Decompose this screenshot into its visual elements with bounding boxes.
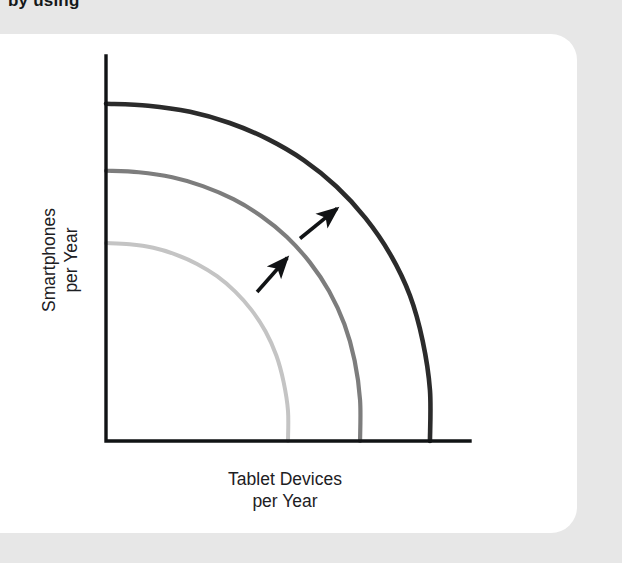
frontier-curves xyxy=(106,104,430,441)
y-axis-label: Smartphones per Year xyxy=(38,170,82,350)
frontier-curve-2 xyxy=(106,171,360,441)
x-axis-label: Tablet Devices per Year xyxy=(145,468,425,512)
figure-title: by using xyxy=(8,0,80,11)
frontier-curve-1 xyxy=(106,243,288,441)
growth-arrow-lower xyxy=(257,258,287,292)
growth-arrow-upper xyxy=(300,208,337,238)
frontier-curve-3 xyxy=(106,104,430,441)
